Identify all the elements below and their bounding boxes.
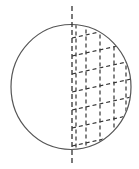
hatch-vertical-lines [76,25,126,150]
hatch-diagonal-line [72,151,133,164]
hatch-diagonal-line [72,133,133,146]
hatch-diagonal-line [72,61,133,74]
hatch-pattern [72,25,133,165]
hatch-diagonal-line [72,79,133,92]
circle-outline [11,25,131,150]
hatch-diagonal-lines [72,25,133,164]
hatch-diagonal-line [72,25,133,38]
hatch-diagonal-line [72,97,133,110]
hatched-circle-diagram [0,0,139,169]
hatch-diagonal-line [72,43,133,56]
